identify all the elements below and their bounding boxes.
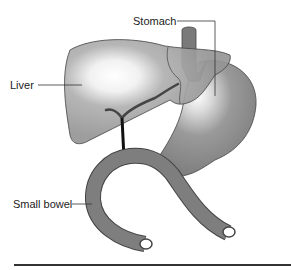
liver-label: Liver (10, 79, 34, 91)
bowel-end-right (223, 227, 235, 237)
stomach-label: Stomach (133, 15, 176, 27)
anatomy-diagram (0, 0, 291, 270)
bowel-end-left (140, 239, 152, 249)
small-bowel-label: Small bowel (13, 198, 72, 210)
